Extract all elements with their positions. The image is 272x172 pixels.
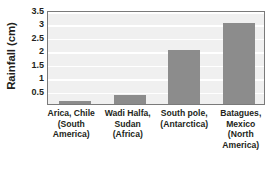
- y-axis-title: Rainfall (cm): [0, 0, 22, 112]
- x-axis-category-label-line: (South: [44, 119, 99, 130]
- y-axis-tick-labels: 3.532.521.510.5: [22, 0, 46, 112]
- y-axis-tick-label: 0.5: [31, 87, 44, 96]
- bar: [114, 95, 146, 104]
- bar: [168, 50, 200, 104]
- rainfall-bar-chart: Rainfall (cm) 3.532.521.510.5 Arica, Chi…: [0, 0, 272, 172]
- x-axis-category-label: Wadi Halfa,Sudan(Africa): [100, 108, 157, 172]
- x-axis-category-label-line: (Antarctica): [157, 119, 212, 130]
- x-axis-category-label-line: (North: [214, 129, 269, 140]
- x-axis-category-label: Arica, Chile(SouthAmerica): [43, 108, 100, 172]
- plot-area: [47, 11, 265, 105]
- bar: [59, 101, 91, 104]
- x-axis-category-label-line: Arica, Chile: [44, 108, 99, 119]
- y-axis-tick-label: 3.5: [31, 7, 44, 16]
- y-axis-tick-label: 1: [39, 74, 44, 83]
- y-axis-tick-label: 2: [39, 47, 44, 56]
- x-axis-category-label-line: Sudan: [101, 119, 156, 130]
- x-axis-category-label: South pole,(Antarctica): [156, 108, 213, 172]
- y-axis-tick-label: 1.5: [31, 60, 44, 69]
- x-axis-category-label: Batagues,Mexico(NorthAmerica): [213, 108, 270, 172]
- x-axis-category-labels: Arica, Chile(SouthAmerica)Wadi Halfa,Sud…: [43, 108, 269, 172]
- x-axis-category-label-line: Mexico: [214, 119, 269, 130]
- x-axis-category-label-line: Wadi Halfa,: [101, 108, 156, 119]
- x-axis-category-label-line: (Africa): [101, 129, 156, 140]
- y-axis-tick-label: 3: [39, 20, 44, 29]
- y-axis-tick-label: 2.5: [31, 33, 44, 42]
- x-axis-category-label-line: Batagues,: [214, 108, 269, 119]
- x-axis-category-label-line: America): [214, 140, 269, 151]
- x-axis-category-label-line: America): [44, 129, 99, 140]
- bars-layer: [48, 12, 264, 104]
- y-axis-title-text: Rainfall (cm): [5, 22, 17, 90]
- bar: [223, 23, 255, 104]
- x-axis-category-label-line: South pole,: [157, 108, 212, 119]
